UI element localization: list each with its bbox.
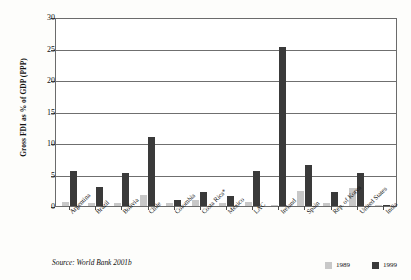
y-tick-label: 5	[31, 171, 55, 180]
y-tick-label: 25	[31, 45, 55, 54]
y-tick-label: 20	[31, 76, 55, 85]
x-label-cell: Mexico	[213, 209, 239, 255]
bar-group	[370, 19, 396, 206]
bar-1989	[245, 202, 252, 206]
chart-figure: Gross FDI as % of GDP (PPP) 051015202530…	[0, 0, 411, 280]
legend-label-1989: 1989	[336, 261, 350, 269]
plot-area	[55, 18, 397, 207]
legend-swatch-1999	[372, 262, 379, 269]
bar-group	[82, 19, 108, 206]
x-label-cell: Argentina	[55, 209, 81, 255]
bar-1989	[140, 195, 147, 206]
x-axis-labels: ArgentinaBrazilBoliviaChileColombiaCosta…	[55, 209, 397, 255]
bar-group	[134, 19, 160, 206]
bar-1989	[166, 203, 173, 206]
bar-group	[239, 19, 265, 206]
x-label-cell: India	[371, 209, 397, 255]
x-label-cell: United States	[344, 209, 370, 255]
bar-group	[56, 19, 82, 206]
bar-1989	[271, 205, 278, 206]
bar-group	[318, 19, 344, 206]
legend: 1989 1999	[325, 261, 397, 269]
bar-1989	[375, 205, 382, 206]
bar-group	[265, 19, 291, 206]
bar-1989	[323, 203, 330, 206]
legend-item-1989: 1989	[325, 261, 350, 269]
bar-1989	[62, 202, 69, 206]
bar-series-container	[56, 19, 396, 206]
bar-1989	[114, 203, 121, 206]
bar-group	[291, 19, 317, 206]
bar-group	[344, 19, 370, 206]
x-label-cell: LAC	[239, 209, 265, 255]
bar-group	[161, 19, 187, 206]
x-label-cell: Spain	[292, 209, 318, 255]
legend-label-1999: 1999	[383, 261, 397, 269]
x-label-cell: Chile	[134, 209, 160, 255]
source-note: Source: World Bank 2001b	[52, 258, 132, 267]
bar-1989	[88, 203, 95, 206]
y-tick-label: 30	[31, 13, 55, 22]
x-label-cell: Costa Rica*	[187, 209, 213, 255]
x-label-cell: Brazil	[81, 209, 107, 255]
bar-1999	[148, 137, 155, 206]
x-label-cell: Colombia	[160, 209, 186, 255]
x-label-cell: Bolivia	[108, 209, 134, 255]
x-label-cell: Ireland	[266, 209, 292, 255]
bar-group	[187, 19, 213, 206]
y-tick-label: 15	[31, 108, 55, 117]
bar-group	[213, 19, 239, 206]
legend-swatch-1989	[325, 262, 332, 269]
legend-item-1999: 1999	[372, 261, 397, 269]
bar-1989	[192, 200, 199, 206]
y-tick-label: 0	[31, 202, 55, 211]
bar-1999	[122, 173, 129, 206]
y-axis: 051015202530	[0, 0, 55, 280]
bar-group	[108, 19, 134, 206]
x-label-cell: Rep. of Korea	[318, 209, 344, 255]
bar-1999	[253, 171, 260, 206]
bar-1999	[305, 165, 312, 206]
bar-1999	[279, 47, 286, 206]
bar-1989	[297, 191, 304, 206]
bar-1989	[219, 203, 226, 206]
y-tick-label: 10	[31, 139, 55, 148]
